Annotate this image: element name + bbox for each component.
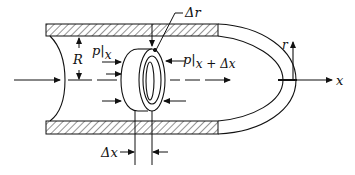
axis-x-label: x [336,73,344,88]
coordinate-axes [293,42,332,80]
pipe-shell-balance-diagram: R p|x p|x + Δx Δr Δx [0,0,355,175]
delta-r-label: Δr [184,5,201,20]
shell-element [121,49,165,111]
axis-r-label: r [282,38,289,52]
pressure-out-arrows [164,61,186,101]
delta-x-dimension [120,111,168,165]
pressure-in-label: p|x [92,43,112,62]
pipe-top-wall [46,24,218,36]
radius-label: R [72,52,83,67]
pipe-left-end [50,36,65,121]
pressure-out-label: p|x + Δx [183,52,236,71]
delta-x-label: Δx [100,145,118,160]
pressure-in-arrows [102,62,121,101]
pipe-bottom-wall [46,121,218,134]
